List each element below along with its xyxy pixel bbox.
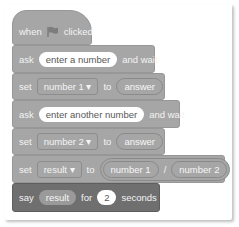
say-for-seconds-block[interactable]: say result for 2 seconds [12,183,160,212]
and-wait-label: and wait [149,109,184,120]
to-label: to [103,81,111,92]
seconds-label: seconds [121,192,156,203]
chevron-down-icon: ▾ [70,164,75,175]
ask-prompt-input[interactable]: enter another number [39,107,144,122]
number1-reporter[interactable]: number 1 [103,161,159,178]
and-wait-label: and wait [122,54,157,65]
divide-symbol: / [164,164,167,175]
answer-reporter[interactable]: answer [116,133,163,150]
to-label: to [103,136,111,147]
set-label: set [19,164,32,175]
set-block-number1[interactable]: set number 1 ▾ to answer [12,73,165,100]
variable-name: number 1 [44,81,84,92]
set-block-number2[interactable]: set number 2 ▾ to answer [12,128,165,155]
variable-dropdown[interactable]: number 1 ▾ [37,78,99,95]
to-label: to [87,164,95,175]
variable-name: number 2 [44,136,84,147]
result-reporter[interactable]: result [39,190,76,205]
say-label: say [19,192,34,203]
when-label: when [19,26,42,37]
variable-dropdown[interactable]: number 2 ▾ [37,133,99,150]
set-label: set [19,81,32,92]
number2-reporter[interactable]: number 2 [171,161,227,178]
ask-label: ask [19,109,34,120]
seconds-input[interactable]: 2 [97,190,116,205]
chevron-down-icon: ▾ [86,81,91,92]
chevron-down-icon: ▾ [86,136,91,147]
clicked-label: clicked [64,26,93,37]
green-flag-icon [47,26,59,37]
ask-prompt-input[interactable]: enter a number [39,52,117,67]
answer-reporter[interactable]: answer [116,78,163,95]
when-flag-clicked-block[interactable]: when clicked [12,10,92,45]
divide-operator-block[interactable]: number 1 / number 2 [100,158,231,181]
set-label: set [19,136,32,147]
variable-dropdown[interactable]: result ▾ [37,161,82,178]
ask-block-1[interactable]: ask enter a number and wait [12,45,155,73]
variable-name: result [44,164,67,175]
set-block-result[interactable]: set result ▾ to number 1 / number 2 [12,155,225,183]
ask-block-2[interactable]: ask enter another number and wait [12,100,180,128]
for-label: for [81,192,92,203]
ask-label: ask [19,54,34,65]
